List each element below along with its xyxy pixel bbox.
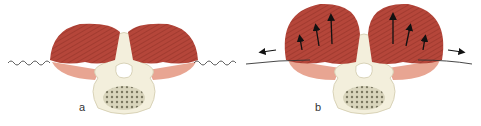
fascia-line-left [8, 61, 50, 65]
vertebra-diagram-a [0, 0, 240, 126]
muscle-left [50, 24, 120, 64]
panel-label-b: b [315, 101, 321, 113]
arrow-left-outward-icon [262, 50, 276, 52]
panel-label-a: a [79, 101, 85, 113]
cancellous-bone [103, 86, 145, 110]
lower-muscle-right [148, 62, 196, 80]
cancellous-bone [343, 86, 385, 110]
muscle-left [285, 4, 360, 64]
vertebra-diagram-b [240, 0, 481, 126]
lower-muscle-left [52, 62, 100, 80]
muscle-right [368, 4, 443, 64]
spinal-canal [356, 63, 373, 78]
muscle-right [128, 24, 198, 64]
spinal-canal [116, 63, 133, 78]
panel-b: b [240, 0, 481, 126]
panel-a: a [0, 0, 240, 126]
fascia-line-right [194, 61, 236, 65]
arrow-right-outward-icon [448, 50, 462, 52]
